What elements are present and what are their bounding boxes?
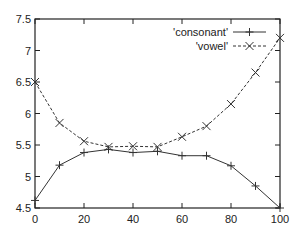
x-tick-label: 100 xyxy=(271,213,289,225)
x-tick-label: 0 xyxy=(32,213,38,225)
plot-frame xyxy=(35,19,280,208)
series-group xyxy=(31,34,284,212)
series-vowel xyxy=(31,34,284,151)
series-line xyxy=(35,38,280,147)
x-tick-label: 20 xyxy=(78,213,90,225)
y-tick-label: 5 xyxy=(25,171,31,183)
series-consonant xyxy=(31,145,284,212)
legend-label: 'vowel' xyxy=(196,40,228,52)
series-line xyxy=(35,149,280,208)
y-tick-label: 6 xyxy=(25,108,31,120)
x-tick-label: 80 xyxy=(225,213,237,225)
y-tick-label: 5.5 xyxy=(16,139,31,151)
y-tick-label: 4.5 xyxy=(16,202,31,214)
line-chart: 0204060801004.555.566.577.5 'consonant''… xyxy=(0,0,304,235)
y-tick-label: 6.5 xyxy=(16,76,31,88)
y-tick-label: 7 xyxy=(25,45,31,57)
legend-label: 'consonant' xyxy=(173,26,228,38)
x-tick-label: 40 xyxy=(127,213,139,225)
legend: 'consonant''vowel' xyxy=(173,26,266,52)
y-tick-label: 7.5 xyxy=(16,13,31,25)
x-tick-label: 60 xyxy=(176,213,188,225)
